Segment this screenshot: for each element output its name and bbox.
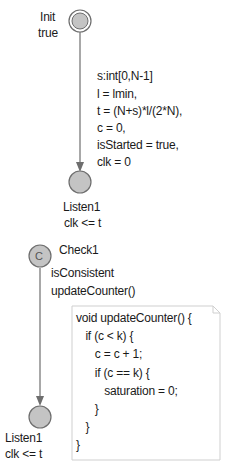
edge-update-line-4: isStarted = true, [97, 138, 179, 153]
code-line: c = c + 1; [76, 345, 192, 363]
code-line: } [76, 418, 192, 436]
state-listen1-top-name: Listen1 [63, 200, 100, 215]
edge-guard-label: isConsistent [51, 266, 114, 281]
state-listen1-bottom-invariant: clk <= t [5, 447, 42, 462]
state-init[interactable] [69, 10, 91, 32]
state-listen1-top-invariant: clk <= t [64, 216, 101, 231]
edge-init-to-listen1[interactable] [76, 32, 84, 172]
edge-update-line-3: c = 0, [97, 121, 125, 136]
state-init-name: Init [40, 10, 55, 25]
edge-check1-to-listen1[interactable] [36, 268, 44, 406]
code-line: void updateCounter() { [76, 309, 192, 327]
code-line: saturation = 0; [76, 382, 192, 400]
code-line: if (c == k) { [76, 364, 192, 382]
state-check1-name: Check1 [59, 243, 99, 258]
edge-select-label: s:int[0,N-1] [97, 69, 153, 84]
edge-update-line-2: t = (N+s)*l/(2*N), [97, 104, 182, 119]
state-init-invariant: true [38, 26, 58, 41]
state-listen1-top[interactable] [69, 171, 91, 193]
state-listen1-bottom[interactable] [29, 406, 51, 428]
edge-update-line-1: l = lmin, [97, 87, 137, 102]
committed-marker-icon: C [35, 249, 43, 264]
edge-update-line-5: clk = 0 [97, 155, 131, 170]
edge-update-label: updateCounter() [51, 284, 135, 299]
code-line: if (c < k) { [76, 327, 192, 345]
code-note-text: void updateCounter() { if (c < k) { c = … [76, 309, 192, 455]
state-listen1-bottom-name: Listen1 [5, 431, 42, 446]
code-line: } [76, 436, 192, 454]
code-line: } [76, 400, 192, 418]
